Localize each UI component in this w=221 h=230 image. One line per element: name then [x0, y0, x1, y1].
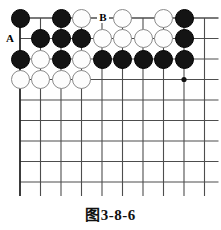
black-stone[interactable] — [134, 50, 153, 69]
black-stone[interactable] — [154, 50, 173, 69]
figure-caption: 图3-8-6 — [0, 203, 221, 224]
white-stone[interactable] — [31, 50, 50, 69]
go-figure: AB 图3-8-6 — [0, 0, 221, 230]
black-stone[interactable] — [175, 9, 194, 28]
black-stone[interactable] — [11, 9, 30, 28]
white-stone[interactable] — [72, 50, 91, 69]
white-stone[interactable] — [134, 29, 153, 48]
black-stone[interactable] — [175, 29, 194, 48]
white-stone[interactable] — [72, 70, 91, 89]
white-stone[interactable] — [113, 29, 132, 48]
black-stone[interactable] — [31, 29, 50, 48]
black-stone[interactable] — [52, 29, 71, 48]
white-stone[interactable] — [93, 29, 112, 48]
black-stone[interactable] — [113, 50, 132, 69]
white-stone[interactable] — [31, 70, 50, 89]
black-stone[interactable] — [11, 50, 30, 69]
white-stone[interactable] — [11, 70, 30, 89]
black-stone[interactable] — [52, 50, 71, 69]
white-stone[interactable] — [52, 70, 71, 89]
black-stone[interactable] — [52, 9, 71, 28]
black-stone[interactable] — [72, 29, 91, 48]
point-label-b: B — [97, 12, 109, 23]
white-stone[interactable] — [154, 29, 173, 48]
point-label-a: A — [4, 33, 16, 44]
white-stone[interactable] — [154, 9, 173, 28]
black-stone[interactable] — [175, 50, 194, 69]
go-board[interactable]: AB — [0, 0, 221, 200]
black-stone[interactable] — [93, 50, 112, 69]
star-point — [181, 77, 186, 82]
white-stone[interactable] — [72, 9, 91, 28]
white-stone[interactable] — [113, 9, 132, 28]
